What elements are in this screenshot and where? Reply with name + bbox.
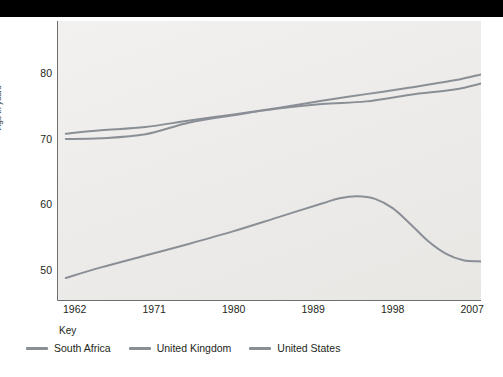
legend-swatch-icon — [249, 347, 271, 350]
legend-title: Key — [59, 325, 76, 336]
y-tick-label: 80 — [12, 67, 52, 79]
series-line — [66, 74, 481, 133]
series-line — [66, 84, 481, 139]
series-line — [66, 196, 481, 278]
legend-item: South Africa — [26, 343, 111, 354]
legend-label: South Africa — [54, 343, 111, 354]
y-axis-label: Age in years — [0, 10, 3, 130]
plot-area — [57, 21, 481, 301]
x-tick-label: 1989 — [283, 303, 343, 315]
legend-item: United States — [249, 343, 340, 354]
chart-page: 50607080 Age in years 196219711980198919… — [0, 0, 503, 377]
x-axis-ticks: 196219711980198919982007 — [57, 303, 481, 321]
y-tick-label: 60 — [12, 198, 52, 210]
legend-swatch-icon — [129, 347, 151, 350]
plot-lines — [57, 21, 481, 301]
y-tick-label: 50 — [12, 264, 52, 276]
legend-label: United States — [277, 343, 340, 354]
y-tick-label: 70 — [12, 133, 52, 145]
top-black-band — [0, 0, 503, 17]
x-tick-label: 2007 — [442, 303, 502, 315]
x-tick-label: 1998 — [363, 303, 423, 315]
x-tick-label: 1980 — [204, 303, 264, 315]
x-tick-label: 1962 — [45, 303, 105, 315]
legend-swatch-icon — [26, 347, 48, 350]
x-tick-label: 1971 — [124, 303, 184, 315]
legend-item: United Kingdom — [129, 343, 232, 354]
legend-label: United Kingdom — [157, 343, 232, 354]
chart-legend: South AfricaUnited KingdomUnited States — [26, 343, 340, 354]
y-axis-ticks: 50607080 — [8, 21, 52, 301]
